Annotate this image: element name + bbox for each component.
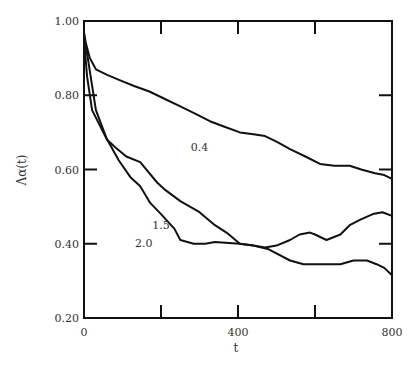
y-tick-label: 1.00 (55, 15, 80, 28)
curve-label: 1.5 (152, 219, 170, 232)
axis-tick-labels: 0.200.400.600.801.000400800 (55, 15, 403, 339)
curve-label: 2.0 (135, 237, 153, 250)
x-tick-label: 800 (382, 326, 403, 339)
y-tick-label: 0.60 (55, 164, 80, 177)
line-chart: 0.200.400.600.801.000400800 0.41.52.0 t … (0, 0, 412, 376)
curve-1-5 (84, 36, 392, 248)
plot-frame (84, 21, 392, 318)
data-curves (84, 32, 392, 275)
y-tick-label: 0.40 (55, 238, 80, 251)
y-axis-title: Λα(t) (15, 155, 29, 187)
x-tick-label: 400 (228, 326, 249, 339)
x-tick-label: 0 (81, 326, 88, 339)
curve-0-4 (84, 32, 392, 179)
y-tick-label: 0.20 (55, 312, 80, 325)
x-axis-title: t (234, 341, 239, 355)
curve-label: 0.4 (191, 141, 209, 154)
y-tick-label: 0.80 (55, 89, 80, 102)
axis-ticks (84, 21, 392, 318)
